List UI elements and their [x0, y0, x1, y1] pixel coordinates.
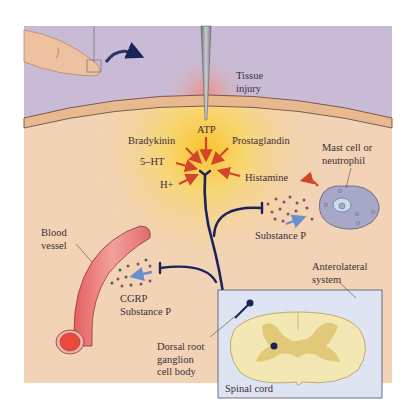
- label-blood-vessel: Blood vessel: [41, 227, 67, 252]
- label-histamine: Histamine: [245, 172, 288, 185]
- spinal-cord-inset: [218, 290, 382, 398]
- label-5ht: 5–HT: [140, 156, 165, 169]
- label-bradykinin: Bradykinin: [128, 135, 175, 148]
- pain-pathway-diagram: Tissue injury ATP Bradykinin Prostagland…: [0, 0, 409, 418]
- label-prostaglandin: Prostaglandin: [232, 135, 290, 148]
- dorsal-horn-neuron: [271, 343, 278, 350]
- label-spinal-cord: Spinal cord: [225, 383, 273, 396]
- label-mast-cell: Mast cell or neutrophil: [322, 142, 372, 167]
- label-substance-p: Substance P: [255, 230, 306, 243]
- label-cgrp-substance-p: CGRP Substance P: [120, 293, 171, 318]
- label-anterolateral-system: Anterolateral system: [312, 261, 367, 286]
- label-dorsal-root-ganglion: Dorsal root ganglion cell body: [157, 341, 205, 379]
- label-atp: ATP: [197, 124, 216, 137]
- vessel-lumen: [60, 333, 80, 351]
- label-h-plus: H+: [160, 179, 174, 192]
- label-tissue-injury: Tissue injury: [236, 70, 263, 95]
- mast-cell: [319, 186, 379, 229]
